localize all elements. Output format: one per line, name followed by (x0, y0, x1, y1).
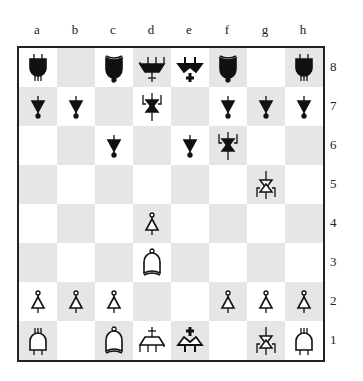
rank-label: 6 (330, 125, 337, 164)
rank-label: 8 (330, 47, 337, 86)
square-a2[interactable] (19, 282, 57, 321)
square-a3[interactable] (19, 243, 57, 282)
square-g1[interactable] (247, 321, 285, 360)
square-c1[interactable] (95, 321, 133, 360)
black-bishop-icon[interactable] (213, 52, 243, 84)
square-d6[interactable] (133, 126, 171, 165)
black-pawn-icon[interactable] (213, 91, 243, 123)
square-e5[interactable] (171, 165, 209, 204)
square-e4[interactable] (171, 204, 209, 243)
square-f5[interactable] (209, 165, 247, 204)
square-f1[interactable] (209, 321, 247, 360)
square-b6[interactable] (57, 126, 95, 165)
square-h6[interactable] (285, 126, 323, 165)
square-f3[interactable] (209, 243, 247, 282)
square-b8[interactable] (57, 48, 95, 87)
square-b3[interactable] (57, 243, 95, 282)
square-g7[interactable] (247, 87, 285, 126)
square-f8[interactable] (209, 48, 247, 87)
black-pawn-icon[interactable] (99, 130, 129, 162)
square-e2[interactable] (171, 282, 209, 321)
square-a6[interactable] (19, 126, 57, 165)
file-label: c (94, 22, 132, 38)
black-knight-icon[interactable] (137, 91, 167, 123)
black-king-icon[interactable] (175, 52, 205, 84)
white-pawn-icon[interactable] (61, 286, 91, 318)
black-pawn-icon[interactable] (251, 91, 281, 123)
square-g4[interactable] (247, 204, 285, 243)
square-g8[interactable] (247, 48, 285, 87)
rank-label: 4 (330, 204, 337, 243)
white-knight-icon[interactable] (251, 325, 281, 357)
square-c6[interactable] (95, 126, 133, 165)
square-b5[interactable] (57, 165, 95, 204)
square-c4[interactable] (95, 204, 133, 243)
square-h4[interactable] (285, 204, 323, 243)
square-e1[interactable] (171, 321, 209, 360)
square-f4[interactable] (209, 204, 247, 243)
square-c7[interactable] (95, 87, 133, 126)
white-king-icon[interactable] (175, 325, 205, 357)
square-c2[interactable] (95, 282, 133, 321)
square-e3[interactable] (171, 243, 209, 282)
square-d3[interactable] (133, 243, 171, 282)
square-c5[interactable] (95, 165, 133, 204)
white-pawn-icon[interactable] (251, 286, 281, 318)
square-d2[interactable] (133, 282, 171, 321)
black-pawn-icon[interactable] (61, 91, 91, 123)
square-d8[interactable] (133, 48, 171, 87)
square-h8[interactable] (285, 48, 323, 87)
square-a8[interactable] (19, 48, 57, 87)
white-rook-icon[interactable] (289, 325, 319, 357)
square-b1[interactable] (57, 321, 95, 360)
white-pawn-icon[interactable] (289, 286, 319, 318)
black-pawn-icon[interactable] (23, 91, 53, 123)
square-a7[interactable] (19, 87, 57, 126)
square-b2[interactable] (57, 282, 95, 321)
square-a4[interactable] (19, 204, 57, 243)
square-a5[interactable] (19, 165, 57, 204)
square-e8[interactable] (171, 48, 209, 87)
black-bishop-icon[interactable] (99, 52, 129, 84)
square-d4[interactable] (133, 204, 171, 243)
white-bishop-icon[interactable] (137, 247, 167, 279)
white-pawn-icon[interactable] (213, 286, 243, 318)
white-pawn-icon[interactable] (137, 208, 167, 240)
square-h2[interactable] (285, 282, 323, 321)
square-d7[interactable] (133, 87, 171, 126)
square-a1[interactable] (19, 321, 57, 360)
rank-label: 7 (330, 86, 337, 125)
square-c8[interactable] (95, 48, 133, 87)
black-pawn-icon[interactable] (175, 130, 205, 162)
square-h3[interactable] (285, 243, 323, 282)
square-g3[interactable] (247, 243, 285, 282)
square-f7[interactable] (209, 87, 247, 126)
square-h1[interactable] (285, 321, 323, 360)
square-g6[interactable] (247, 126, 285, 165)
black-knight-icon[interactable] (213, 130, 243, 162)
black-pawn-icon[interactable] (289, 91, 319, 123)
white-pawn-icon[interactable] (23, 286, 53, 318)
square-c3[interactable] (95, 243, 133, 282)
square-g5[interactable] (247, 165, 285, 204)
rank-label: 2 (330, 282, 337, 321)
white-rook-icon[interactable] (23, 325, 53, 357)
white-queen-icon[interactable] (137, 325, 167, 357)
square-f2[interactable] (209, 282, 247, 321)
white-bishop-icon[interactable] (99, 325, 129, 357)
square-d5[interactable] (133, 165, 171, 204)
square-b7[interactable] (57, 87, 95, 126)
square-f6[interactable] (209, 126, 247, 165)
white-pawn-icon[interactable] (99, 286, 129, 318)
square-g2[interactable] (247, 282, 285, 321)
white-knight-icon[interactable] (251, 169, 281, 201)
square-h5[interactable] (285, 165, 323, 204)
square-d1[interactable] (133, 321, 171, 360)
square-e6[interactable] (171, 126, 209, 165)
square-h7[interactable] (285, 87, 323, 126)
black-queen-icon[interactable] (137, 52, 167, 84)
black-rook-icon[interactable] (289, 52, 319, 84)
black-rook-icon[interactable] (23, 52, 53, 84)
square-e7[interactable] (171, 87, 209, 126)
square-b4[interactable] (57, 204, 95, 243)
